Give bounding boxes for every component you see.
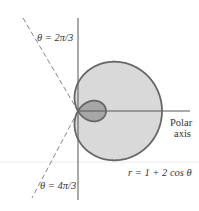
polar-axis-label-line1: Polar bbox=[170, 117, 193, 128]
polar-axis-label-line2: axis bbox=[174, 128, 191, 139]
theta-upper-label: θ = 2π/3 bbox=[37, 32, 73, 43]
theta-lower-label: θ = 4π/3 bbox=[40, 180, 76, 191]
equation-label: r = 1 + 2 cos θ bbox=[128, 167, 192, 178]
polar-plot: θ = 2π/3 θ = 4π/3 Polar axis r = 1 + 2 c… bbox=[0, 0, 199, 211]
